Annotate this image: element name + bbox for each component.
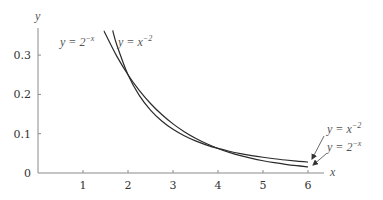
annotation-x-to-minus-2-end: y = x−2 <box>326 121 361 136</box>
series-x-to-minus-2-line <box>113 30 308 162</box>
annotation-x-to-minus-2-top: y = x−2 <box>117 34 152 49</box>
x-tick-label: 1 <box>80 179 87 192</box>
y-tick-label: 0 <box>24 167 31 180</box>
x-tick-label: 6 <box>305 179 312 192</box>
y-tick-label: 0.3 <box>14 49 32 62</box>
y-tick-label: 0.1 <box>14 128 32 141</box>
chart: y x 123456 00.10.20.3 y = 2−x y = x−2 y … <box>0 0 383 200</box>
y-axis-label: y <box>34 9 41 23</box>
x-tick-label: 2 <box>125 179 132 192</box>
curves <box>104 30 308 166</box>
x-axis-label: x <box>329 165 336 179</box>
arrow-to-2-to-minus-x-end <box>313 154 326 165</box>
series-2-to-minus-x-line <box>104 31 308 167</box>
y-ticks: 00.10.20.3 <box>14 49 42 180</box>
x-tick-label: 3 <box>170 179 177 192</box>
arrow-to-x-to-minus-2-end <box>312 136 324 159</box>
y-tick-label: 0.2 <box>14 88 32 101</box>
annotation-2-to-minus-x-end: y = 2−x <box>326 139 362 154</box>
annotation-2-to-minus-x-top: y = 2−x <box>59 34 95 49</box>
x-tick-label: 4 <box>215 179 222 192</box>
x-tick-label: 5 <box>260 179 267 192</box>
